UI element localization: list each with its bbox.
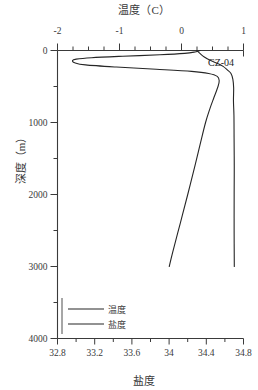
tick-label-bottom: 33.2 [86, 348, 103, 358]
tick-label-left: 1000 [29, 118, 48, 128]
tick-label-top: 1 [241, 26, 246, 36]
station-annotation: CZ-04 [208, 57, 234, 68]
tick-label-top: -1 [116, 26, 124, 36]
tick-label-bottom: 34 [164, 348, 174, 358]
legend-label-salinity: 盐度 [108, 318, 126, 331]
tick-label-bottom: 32.8 [49, 348, 66, 358]
tick-label-left: 0 [43, 46, 48, 56]
tick-label-top: 0 [179, 26, 184, 36]
tick-label-bottom: 34.8 [235, 348, 252, 358]
tick-label-left: 4000 [29, 334, 48, 344]
series-line-temperature [72, 51, 219, 267]
tick-label-bottom: 34.4 [198, 348, 215, 358]
tick-label-left: 2000 [29, 190, 48, 200]
series-line-salinity [197, 51, 234, 267]
tick-label-bottom: 33.6 [124, 348, 141, 358]
legend-label-temperature: 温度 [108, 303, 126, 316]
tick-label-top: -2 [54, 26, 62, 36]
figure-panel: 温度（C） 深度（m） 盐度 -2-10132.833.233.63434.43… [0, 0, 258, 390]
tick-label-left: 3000 [29, 262, 48, 272]
